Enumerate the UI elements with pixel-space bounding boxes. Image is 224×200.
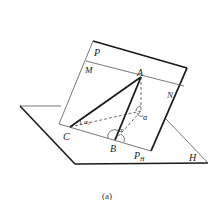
label-angle-alpha: α <box>143 113 148 122</box>
label-angle-theta: α <box>119 126 123 134</box>
label-plane-h: H <box>188 152 197 163</box>
label-point-c: C <box>63 131 70 142</box>
label-m: M <box>84 65 93 75</box>
label-point-b: B <box>110 143 116 154</box>
plane-h <box>20 106 208 164</box>
label-angle-alpha1: α1 <box>84 118 90 126</box>
label-plane-p: P <box>93 47 100 58</box>
label-point-a: A <box>136 67 144 78</box>
label-trace-ph: PH <box>133 150 145 162</box>
label-n: N <box>166 90 174 100</box>
figure-caption: (a) <box>102 191 112 200</box>
diagram-canvas: P M A N α α1 α C B PH H (a) <box>0 0 224 200</box>
